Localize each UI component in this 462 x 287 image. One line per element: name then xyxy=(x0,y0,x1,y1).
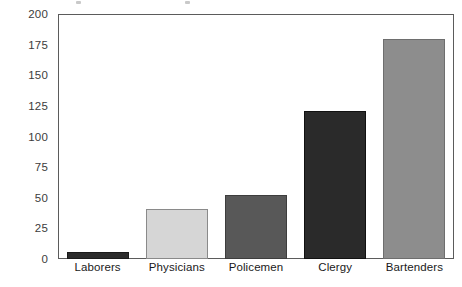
x-axis-label-laborers: Laborers xyxy=(74,261,120,273)
bar-physicians xyxy=(146,209,208,259)
y-axis-tick-label: 50 xyxy=(35,192,48,204)
bar-bartenders xyxy=(383,39,445,260)
x-axis-label-bartenders: Bartenders xyxy=(386,261,443,273)
x-axis-labels: LaborersPhysiciansPolicemenClergyBartend… xyxy=(58,261,454,281)
bar-laborers xyxy=(67,252,129,259)
y-axis-tick-label: 200 xyxy=(28,8,48,20)
y-axis-tick-label: 150 xyxy=(28,69,48,81)
y-axis-tick-label: 100 xyxy=(28,131,48,143)
bars-layer xyxy=(58,14,454,259)
y-axis-tick-label: 175 xyxy=(28,39,48,51)
y-axis-tick-label: 125 xyxy=(28,100,48,112)
bar-chart: 0255075100125150175200 LaborersPhysician… xyxy=(0,0,462,287)
x-axis-label-physicians: Physicians xyxy=(149,261,205,273)
y-axis-tick-label: 25 xyxy=(35,222,48,234)
bar-clergy xyxy=(304,111,366,259)
y-axis-tick-label: 0 xyxy=(41,253,48,265)
y-axis: 0255075100125150175200 xyxy=(0,0,58,287)
y-axis-tick-label: 75 xyxy=(35,161,48,173)
x-axis-label-policemen: Policemen xyxy=(229,261,284,273)
bar-policemen xyxy=(225,195,287,259)
title-fragment-glyph xyxy=(76,1,81,4)
title-fragment-glyph xyxy=(185,1,190,4)
x-axis-label-clergy: Clergy xyxy=(318,261,352,273)
cropped-title-remnant xyxy=(58,0,454,7)
